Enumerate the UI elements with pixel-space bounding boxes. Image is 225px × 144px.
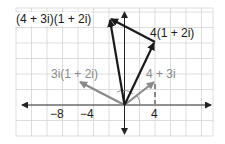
vector-rotated: [80, 82, 125, 105]
label-base: 4 + 3i: [146, 67, 176, 81]
tick-label-4: 4: [151, 107, 158, 121]
vector-sum-arrow: [111, 19, 155, 42]
tick-label-neg8: −8: [50, 107, 64, 121]
label-rotated: 3i(1 + 2i): [51, 67, 98, 81]
label-product: (4 + 3i)(1 + 2i): [15, 12, 92, 26]
label-scaled: 4(1 + 2i): [150, 26, 194, 40]
tick-label-neg4: −4: [80, 107, 94, 121]
